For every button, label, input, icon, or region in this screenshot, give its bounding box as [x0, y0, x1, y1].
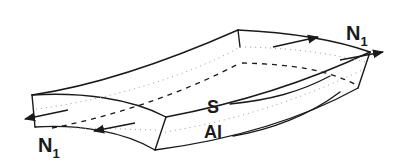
- left-arrow-upper: [25, 110, 68, 119]
- axial-label: Al: [204, 122, 222, 142]
- right-top-long-edge: [166, 52, 370, 117]
- right-arrow-tip: [340, 52, 383, 60]
- front-vertical-edge: [155, 117, 166, 150]
- surface-label: S: [207, 97, 219, 117]
- left-arrow-lower: [94, 123, 135, 131]
- top-back-edge: [32, 30, 238, 95]
- right-bottom-long-edge: [155, 88, 358, 150]
- force-label-left: N1: [38, 134, 60, 161]
- axial-leader-line: [233, 92, 340, 136]
- dotted-top-right: [245, 47, 365, 62]
- left-end-face: [32, 95, 35, 127]
- surface-leader-line: [230, 76, 330, 104]
- right-arrow-top: [273, 37, 318, 47]
- beam-diagram: N1 N1 S Al: [0, 0, 403, 161]
- back-vertical-edge: [238, 30, 240, 47]
- hidden-back-bottom: [242, 63, 358, 86]
